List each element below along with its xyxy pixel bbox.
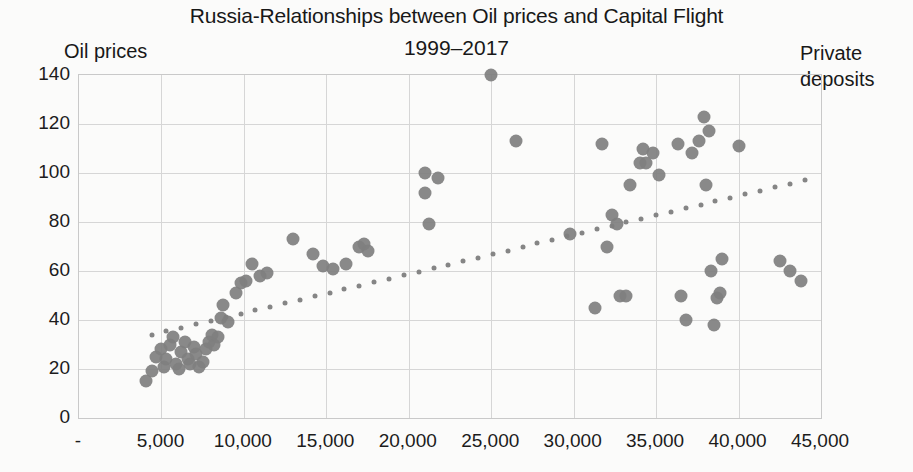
gridline-vertical xyxy=(409,75,410,418)
y-axis-tick-label: 0 xyxy=(10,406,70,428)
data-point[interactable] xyxy=(239,274,252,287)
data-point[interactable] xyxy=(646,147,659,160)
data-point[interactable] xyxy=(589,301,602,314)
data-point[interactable] xyxy=(732,140,745,153)
data-point[interactable] xyxy=(623,179,636,192)
trendline-dot xyxy=(713,199,718,204)
data-point[interactable] xyxy=(564,228,577,241)
data-point[interactable] xyxy=(307,247,320,260)
trendline-dot xyxy=(505,248,510,253)
trendline-dot xyxy=(342,287,347,292)
x-axis-tick-label: 10,000 xyxy=(214,430,272,452)
data-point[interactable] xyxy=(716,252,729,265)
data-point[interactable] xyxy=(419,167,432,180)
data-point[interactable] xyxy=(697,110,710,123)
data-point[interactable] xyxy=(196,355,209,368)
y-axis-tick-label: 100 xyxy=(10,161,70,183)
trendline-dot xyxy=(683,206,688,211)
trendline-dot xyxy=(179,325,184,330)
trendline-dot xyxy=(312,294,317,299)
trendline-dot xyxy=(728,195,733,200)
data-point[interactable] xyxy=(419,186,432,199)
y-axis-tick-label: 60 xyxy=(10,259,70,281)
page-title: Russia-Relationships between Oil prices … xyxy=(0,4,913,28)
plot-area xyxy=(78,74,822,419)
x-axis-tick-label: 45,000 xyxy=(791,430,849,452)
trendline-dot xyxy=(624,220,629,225)
x-axis-tick-label: 20,000 xyxy=(379,430,437,452)
trendline-dot xyxy=(431,266,436,271)
gridline-vertical xyxy=(574,75,575,418)
x-axis-tick-label: 15,000 xyxy=(296,430,354,452)
data-point[interactable] xyxy=(246,257,259,270)
data-point[interactable] xyxy=(795,274,808,287)
trendline-dot xyxy=(401,273,406,278)
data-point[interactable] xyxy=(671,137,684,150)
data-point[interactable] xyxy=(222,316,235,329)
trendline-dot xyxy=(743,192,748,197)
data-point[interactable] xyxy=(260,267,273,280)
data-point[interactable] xyxy=(287,233,300,246)
gridline-horizontal xyxy=(79,222,821,223)
data-point[interactable] xyxy=(702,125,715,138)
trendline-dot xyxy=(668,209,673,214)
gridline-vertical xyxy=(244,75,245,418)
trendline-dot xyxy=(283,301,288,306)
data-point[interactable] xyxy=(653,169,666,182)
data-point[interactable] xyxy=(509,135,522,148)
x-axis-tick-label: - xyxy=(75,430,81,452)
gridline-vertical xyxy=(491,75,492,418)
data-point[interactable] xyxy=(610,218,623,231)
gridline-vertical xyxy=(739,75,740,418)
data-point[interactable] xyxy=(432,171,445,184)
trendline-dot xyxy=(639,216,644,221)
trendline-dot xyxy=(535,241,540,246)
trendline-dot xyxy=(194,322,199,327)
data-point[interactable] xyxy=(326,262,339,275)
gridline-vertical xyxy=(326,75,327,418)
trendline-dot xyxy=(579,230,584,235)
chart-page: Russia-Relationships between Oil prices … xyxy=(0,0,913,472)
data-point[interactable] xyxy=(699,179,712,192)
gridline-vertical xyxy=(656,75,657,418)
y-axis-tick-label: 120 xyxy=(10,112,70,134)
y-axis-title: Oil prices xyxy=(64,40,147,63)
trendline-dot xyxy=(446,262,451,267)
trendline-dot xyxy=(550,237,555,242)
trendline-dot xyxy=(520,245,525,250)
data-point[interactable] xyxy=(620,289,633,302)
trendline-dot xyxy=(149,332,154,337)
trendline-dot xyxy=(268,304,273,309)
trendline-dot xyxy=(238,311,243,316)
trendline-dot xyxy=(698,202,703,207)
y-axis-tick-label: 40 xyxy=(10,308,70,330)
trendline-dot xyxy=(386,276,391,281)
trendline-dot xyxy=(327,290,332,295)
trendline-dot xyxy=(476,255,481,260)
trendline-dot xyxy=(208,318,213,323)
data-point[interactable] xyxy=(217,299,230,312)
x-axis-tick-label: 30,000 xyxy=(544,430,602,452)
data-point[interactable] xyxy=(600,240,613,253)
data-point[interactable] xyxy=(783,265,796,278)
trendline-dot xyxy=(802,178,807,183)
data-point[interactable] xyxy=(686,147,699,160)
trendline-dot xyxy=(461,259,466,264)
data-point[interactable] xyxy=(422,218,435,231)
data-point[interactable] xyxy=(704,265,717,278)
trendline-dot xyxy=(297,297,302,302)
data-point[interactable] xyxy=(595,137,608,150)
data-point[interactable] xyxy=(707,318,720,331)
gridline-horizontal xyxy=(79,173,821,174)
data-point[interactable] xyxy=(485,69,498,82)
trendline-dot xyxy=(772,185,777,190)
data-point[interactable] xyxy=(714,287,727,300)
data-point[interactable] xyxy=(361,245,374,258)
data-point[interactable] xyxy=(679,314,692,327)
x-axis-ticks: -5,00010,00015,00020,00025,00030,00035,0… xyxy=(0,430,913,460)
data-point[interactable] xyxy=(211,331,224,344)
data-point[interactable] xyxy=(674,289,687,302)
data-point[interactable] xyxy=(340,257,353,270)
trendline-dot xyxy=(594,227,599,232)
data-point[interactable] xyxy=(692,135,705,148)
